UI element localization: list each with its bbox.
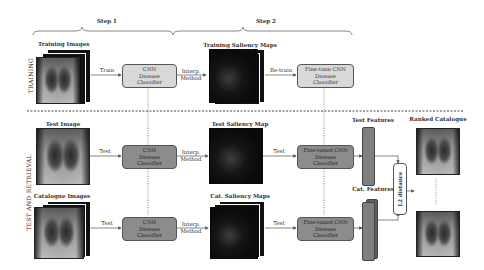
step1-label: Step 1 xyxy=(92,18,122,24)
classifier-line3: Classifier xyxy=(137,79,162,85)
finetune-classifier-training[interactable]: Fine-tune CNN Disease Classifier xyxy=(297,64,354,88)
finetuned-classifier-test[interactable]: Fine-tuned CNN Disease Classifier xyxy=(297,145,354,169)
ranked-result-bottom xyxy=(416,211,460,257)
training-saliency-label: Training Saliency Maps xyxy=(200,42,280,48)
test-retrieval-section-label: TEST AND RETRIEVAL xyxy=(25,133,32,253)
cat-features-label: Cat. Features xyxy=(350,186,396,192)
step2-brace xyxy=(173,27,352,35)
cat-test-edge-label: Test xyxy=(96,220,118,227)
training-xray-image xyxy=(36,57,80,104)
catalogue-images-label: Catalogue Images xyxy=(32,193,92,199)
l2-distance-label: L2 distance xyxy=(397,172,403,207)
test-xray-image xyxy=(36,128,90,185)
test-edge-label: Test xyxy=(94,148,116,155)
arrow-test-feat-to-l2 xyxy=(373,156,398,163)
step2-label: Step 2 xyxy=(251,18,281,24)
interp-method-edge-training: Interp. Method xyxy=(178,68,204,82)
test-image-label: Test Image xyxy=(38,121,88,127)
finetuned-classifier-catalogue[interactable]: Fine-tuned CNN Disease Classifier xyxy=(297,217,354,241)
train-edge-label: Train xyxy=(96,67,118,74)
interp-method-edge-catalogue: Interp. Method xyxy=(178,221,204,235)
cnn-classifier-test[interactable]: CNN Disease Classifier xyxy=(122,145,177,169)
test-features-bar xyxy=(362,127,375,186)
ranked-catalogue-label: Ranked Catalogue xyxy=(408,116,468,122)
retrain-edge-label: Re-train xyxy=(268,67,294,74)
cat-saliency-label: Cat. Saliency Maps xyxy=(200,193,280,199)
training-saliency-map xyxy=(209,49,258,103)
cat-features-bar xyxy=(362,202,375,261)
interp-method-edge-test: Interp. Method xyxy=(178,149,204,163)
cat-saliency-map xyxy=(210,207,258,259)
cat-test-edge2-label: Test xyxy=(268,220,290,227)
training-section-label: TRAINING xyxy=(27,46,34,106)
step1-brace xyxy=(33,27,173,35)
cnn-classifier-training[interactable]: CNN Disease Classifier xyxy=(122,64,177,88)
test-saliency-map xyxy=(209,128,263,184)
cnn-classifier-catalogue[interactable]: CNN Disease Classifier xyxy=(122,217,177,241)
catalogue-xray-image xyxy=(34,207,84,259)
test-saliency-label: Test Saliency Map xyxy=(200,121,280,127)
training-images-label: Training Images xyxy=(38,41,88,47)
test-edge2-label: Test xyxy=(268,148,290,155)
test-features-label: Test Features xyxy=(350,117,396,123)
l2-distance-node[interactable]: L2 distance xyxy=(393,163,407,215)
ranked-result-top xyxy=(416,128,460,175)
